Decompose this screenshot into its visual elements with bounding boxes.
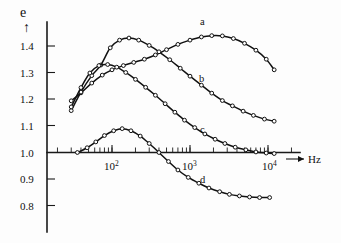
data-point-c (79, 86, 83, 90)
data-point-b (108, 46, 112, 50)
data-point-a (200, 35, 204, 39)
data-point-c (134, 77, 138, 81)
data-point-d (120, 127, 124, 131)
x-tick-label-10000: 104 (262, 159, 277, 172)
data-point-c (233, 145, 237, 149)
curve-label-b: b (199, 73, 204, 84)
figure-container: e ↑ 1.4 1.3 1.2 1.1 1.0 0.9 0.8 (0, 0, 341, 243)
y-axis-arrow-icon: ↑ (23, 20, 30, 35)
y-tick-label: 1.1 (20, 120, 34, 132)
data-point-c (264, 151, 268, 155)
data-point-c (88, 71, 92, 75)
y-tick-label: 1.3 (20, 67, 34, 79)
curve-line-b (71, 38, 274, 121)
data-point-a (132, 61, 136, 65)
curve-group (69, 34, 276, 200)
data-point-d (186, 176, 190, 180)
data-point-c (124, 71, 128, 75)
data-point-b (178, 66, 182, 70)
data-point-a (153, 53, 157, 57)
curve-label-c: c (200, 124, 205, 135)
data-point-b (263, 117, 267, 121)
data-point-d (138, 134, 142, 138)
data-point-a (254, 48, 258, 52)
data-point-d (94, 140, 98, 144)
data-point-c (153, 93, 157, 97)
chart-svg: e ↑ 1.4 1.3 1.2 1.1 1.0 0.9 0.8 (0, 0, 341, 243)
x-tick-label-100: 102 (104, 159, 119, 172)
data-point-a (264, 57, 268, 61)
data-point-a (110, 68, 114, 72)
data-point-b (168, 58, 172, 62)
data-point-d (238, 194, 242, 198)
data-point-b (127, 36, 131, 40)
curve-a (69, 34, 276, 103)
data-point-d (218, 190, 222, 194)
data-point-d (248, 195, 252, 199)
data-point-b (241, 109, 245, 113)
data-point-d (167, 160, 171, 164)
data-point-c (115, 65, 119, 69)
data-point-a (231, 37, 235, 41)
data-point-d (207, 186, 211, 190)
data-point-a (243, 41, 247, 45)
data-point-c (163, 102, 167, 106)
data-point-b (147, 44, 151, 48)
data-point-d (129, 129, 133, 133)
data-point-d (176, 168, 180, 172)
data-point-a (90, 81, 94, 85)
data-point-c (272, 152, 276, 156)
data-point-a (165, 48, 169, 52)
curve-label-a: a (200, 16, 205, 27)
data-point-b (137, 38, 141, 42)
data-point-b (118, 38, 122, 42)
data-point-a (69, 99, 73, 103)
data-point-d (103, 134, 107, 138)
data-point-a (220, 34, 224, 38)
data-point-d (268, 196, 272, 200)
y-tick-label: 1.4 (20, 40, 34, 52)
data-point-b (231, 104, 235, 108)
data-point-b (252, 114, 256, 118)
data-point-c (97, 64, 101, 68)
x-tick-label-1000: 103 (182, 159, 197, 172)
data-point-c (213, 137, 217, 141)
y-tick-label: 0.8 (20, 200, 34, 212)
data-point-d (112, 129, 116, 133)
data-point-a (272, 68, 276, 72)
data-point-d (228, 192, 232, 196)
data-point-c (254, 150, 258, 154)
x-axis-arrowhead-icon (298, 156, 304, 162)
data-point-c (69, 105, 73, 109)
data-point-b (272, 119, 276, 123)
data-point-c (244, 148, 248, 152)
y-tick-label: 1.2 (20, 93, 34, 105)
curve-label-d: d (200, 174, 206, 185)
data-point-a (100, 73, 104, 77)
data-point-c (106, 63, 110, 67)
data-point-a (210, 34, 214, 38)
data-point-b (220, 99, 224, 103)
x-axis-unit-group: Hz (286, 153, 321, 165)
y-axis-symbol: e (20, 5, 26, 20)
y-tick-label: 0.9 (20, 173, 34, 185)
data-point-c (193, 126, 197, 130)
data-point-b (210, 91, 214, 95)
y-tick-group: 1.4 1.3 1.2 1.1 1.0 0.9 0.8 (20, 40, 55, 212)
data-point-b (188, 74, 192, 78)
data-point-d (258, 196, 262, 200)
data-point-c (173, 110, 177, 114)
data-point-a (176, 42, 180, 46)
data-point-d (75, 151, 79, 155)
data-point-a (122, 64, 126, 68)
data-point-c (144, 85, 148, 89)
data-point-d (147, 142, 151, 146)
y-tick-label: 1.0 (20, 147, 34, 159)
data-point-c (183, 118, 187, 122)
data-point-a (188, 38, 192, 42)
x-axis-unit-label: Hz (308, 153, 321, 165)
data-point-a (142, 57, 146, 61)
data-point-b (157, 50, 161, 54)
data-point-c (223, 142, 227, 146)
curve-label-group: a b c d (199, 16, 206, 185)
